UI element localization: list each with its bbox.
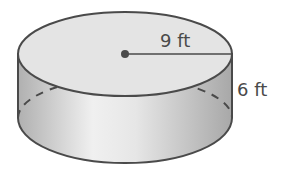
radius-label: 9 ft xyxy=(160,30,190,51)
center-point xyxy=(121,50,129,58)
cylinder-diagram: 9 ft 6 ft xyxy=(0,0,291,177)
height-label: 6 ft xyxy=(237,79,267,100)
